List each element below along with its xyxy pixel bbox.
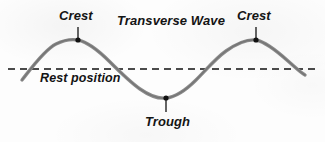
rest-position-label: Rest position — [40, 72, 120, 85]
crest-right-label: Crest — [237, 9, 271, 22]
trough-marker-dot — [163, 95, 168, 100]
trough-label: Trough — [145, 115, 190, 128]
crest-left-marker-dot — [75, 37, 80, 42]
diagram-title: Transverse Wave — [117, 14, 225, 27]
crest-left-label: Crest — [59, 9, 93, 22]
transverse-wave-diagram: Crest Transverse Wave Crest Rest positio… — [0, 0, 325, 142]
crest-right-marker-dot — [253, 37, 258, 42]
